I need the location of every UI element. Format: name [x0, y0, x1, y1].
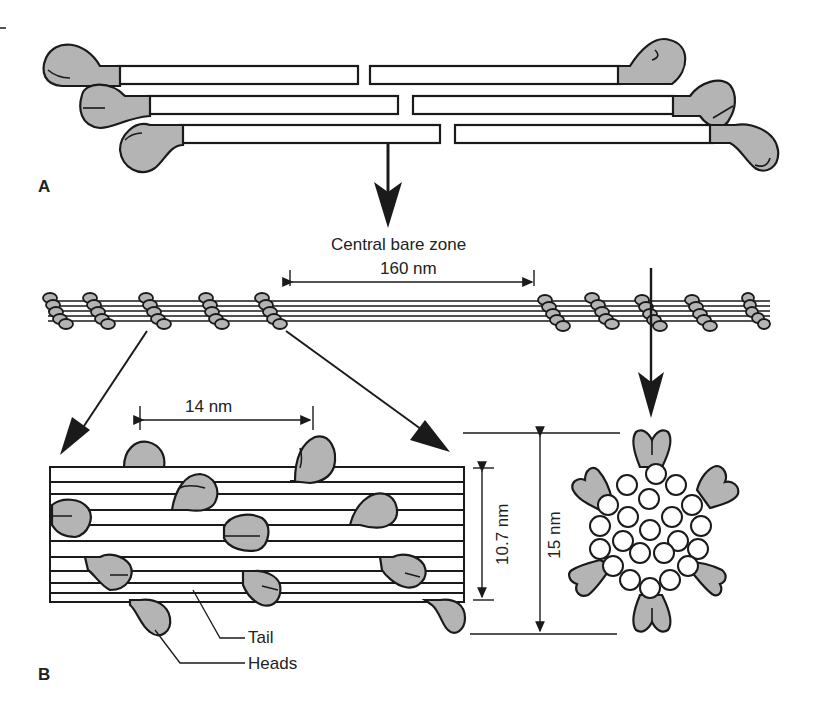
panel-label-a: A: [38, 177, 50, 197]
panel-label-b: B: [38, 665, 50, 685]
backbone-diameter-label: 10.7 nm: [493, 505, 513, 565]
tail-callout: Tail: [248, 628, 274, 648]
bare-zone-length: 160 nm: [380, 259, 437, 279]
bare-zone-label: Central bare zone: [331, 235, 466, 255]
heads-callout: Heads: [248, 654, 297, 674]
myosin-filament-diagram: [0, 0, 816, 713]
total-diameter-label: 15 nm: [545, 510, 565, 560]
head-spacing-label: 14 nm: [185, 397, 232, 417]
overview-head-clusters: [43, 293, 770, 331]
